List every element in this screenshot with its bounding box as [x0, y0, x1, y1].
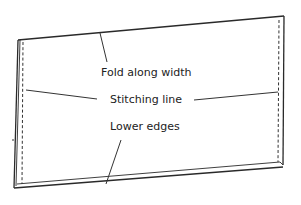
label-lower-edges: Lower edges: [110, 120, 180, 133]
fabric-diagram: Fold along width Stitching line Lower ed…: [0, 0, 301, 205]
right-edge: [283, 16, 284, 165]
lower-edge-outer: [14, 167, 283, 188]
stitching-line-right: [278, 20, 279, 162]
label-fold-along-width: Fold along width: [101, 66, 192, 79]
leader-lower: [106, 140, 121, 184]
leader-stitch-left: [26, 90, 97, 99]
leader-fold: [100, 33, 107, 62]
lower-edge-inner: [17, 162, 280, 184]
left-edge-outer: [14, 40, 18, 188]
fold-edge-top: [18, 16, 284, 40]
label-stitching-line: Stitching line: [110, 93, 182, 106]
leader-stitch-right: [194, 92, 278, 100]
diagram-canvas: Fold along width Stitching line Lower ed…: [0, 0, 301, 205]
stitching-line-left: [22, 42, 23, 184]
